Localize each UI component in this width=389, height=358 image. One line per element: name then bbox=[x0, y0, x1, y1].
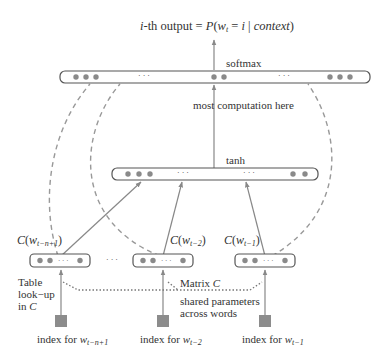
emb2-func: C bbox=[170, 233, 178, 247]
title-close: ) bbox=[290, 19, 294, 33]
table-lookup-c: C bbox=[29, 300, 36, 312]
tanh-label: tanh bbox=[226, 154, 245, 166]
index1-text: index for bbox=[37, 333, 80, 345]
index-label-1: index for wt−n+1 bbox=[37, 333, 108, 349]
index3-sub: t−1 bbox=[292, 338, 304, 347]
embedding-1-ellipsis: · · · bbox=[58, 255, 69, 267]
emb2-sub: t−2 bbox=[190, 239, 202, 248]
index-label-3: index for wt−1 bbox=[242, 333, 304, 349]
shared-matrix-dotted-mid bbox=[168, 282, 178, 290]
title-eq: = bbox=[228, 19, 241, 33]
shared-parameters-label: shared parameters across words bbox=[180, 295, 260, 319]
shared-line1: shared parameters bbox=[180, 295, 260, 307]
index1-sub: t−n+1 bbox=[87, 338, 108, 347]
title-prefix: -th output = bbox=[143, 19, 205, 33]
emb1-sub: t−n+1 bbox=[37, 239, 58, 248]
between-embeddings-ellipsis: · · · bbox=[106, 254, 118, 266]
table-lookup-line2: look−up bbox=[18, 288, 55, 300]
emb3-func: C bbox=[224, 233, 232, 247]
matrix-prefix: Matrix bbox=[180, 277, 213, 289]
title-bar: | bbox=[245, 19, 254, 33]
hidden-ellipsis-right: · · · bbox=[243, 167, 255, 179]
embedding-label-3: C(wt−1) bbox=[224, 234, 260, 250]
index2-sub: t−2 bbox=[190, 338, 202, 347]
output-title: i-th output = P(wt = i | context) bbox=[140, 20, 294, 36]
title-w: w bbox=[218, 19, 226, 33]
table-lookup-line1: Table bbox=[18, 276, 55, 288]
softmax-label: softmax bbox=[226, 57, 261, 69]
embedding-3-ellipsis: · · · bbox=[263, 255, 274, 267]
index-label-2: index for wt−2 bbox=[140, 333, 202, 349]
table-lookup-in: in bbox=[18, 300, 29, 312]
softmax-layer bbox=[60, 71, 370, 83]
embedding-label-2: C(wt−2) bbox=[170, 234, 206, 250]
index2-w: w bbox=[183, 333, 190, 345]
shared-line2: across words bbox=[180, 307, 260, 319]
emb1-func: C bbox=[17, 233, 25, 247]
hidden-layer bbox=[112, 168, 318, 180]
matrix-label: Matrix C bbox=[180, 277, 220, 289]
softmax-ellipsis-left: · · · bbox=[138, 70, 150, 82]
table-lookup-label: Table look−up in C bbox=[18, 276, 55, 312]
index3-text: index for bbox=[242, 333, 285, 345]
emb2-arg: w bbox=[182, 233, 190, 247]
index2-text: index for bbox=[140, 333, 183, 345]
computation-annotation: most computation here bbox=[193, 99, 294, 111]
table-lookup-line3: in C bbox=[18, 300, 55, 312]
embedding-label-1: C(wt−n+1) bbox=[17, 234, 62, 250]
emb1-arg: w bbox=[29, 233, 37, 247]
title-context: context bbox=[254, 19, 290, 33]
index3-w: w bbox=[285, 333, 292, 345]
embedding-2-ellipsis: · · · bbox=[161, 255, 172, 267]
softmax-ellipsis-right: · · · bbox=[278, 70, 290, 82]
emb3-arg: w bbox=[236, 233, 244, 247]
hidden-ellipsis-left: · · · bbox=[177, 167, 189, 179]
emb3-sub: t−1 bbox=[244, 239, 256, 248]
matrix-var: C bbox=[213, 277, 220, 289]
index1-w: w bbox=[80, 333, 87, 345]
